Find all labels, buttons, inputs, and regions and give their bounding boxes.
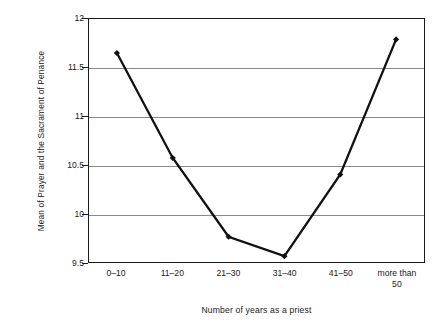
plot-area [88,18,425,263]
series-line [117,39,396,256]
line-chart-figure: Mean of Prayer and the Sacrament of Pena… [0,0,448,329]
y-axis-tick-mark [82,67,88,68]
y-axis-tick-mark [82,214,88,215]
x-axis-tick-labels: 0–1011–2021–3031–4041–50more than50 [88,268,425,308]
plot-inner [89,19,424,262]
y-axis-tick-mark [82,263,88,264]
y-axis-tick-label: 11.5 [46,62,84,72]
y-axis-tick-label: 10.5 [46,160,84,170]
data-point-marker [393,36,399,42]
y-axis-tick-label: 10 [46,209,84,219]
data-series-line [89,19,424,262]
y-axis-tick-mark [82,18,88,19]
y-axis-tick-label: 12 [46,13,84,23]
y-axis-tick-mark [82,165,88,166]
y-axis-tick-label: 9.5 [46,258,84,268]
x-axis-tick-label-line: more than [354,268,440,279]
y-axis-tick-mark [82,116,88,117]
y-axis-tick-label: 11 [46,111,84,121]
x-axis-tick-label: more than50 [354,268,440,290]
x-axis-title: Number of years as a priest [88,305,425,315]
x-axis-tick-label-line: 50 [354,279,440,290]
y-axis-tick-labels: 9.51010.51111.512 [46,0,84,329]
